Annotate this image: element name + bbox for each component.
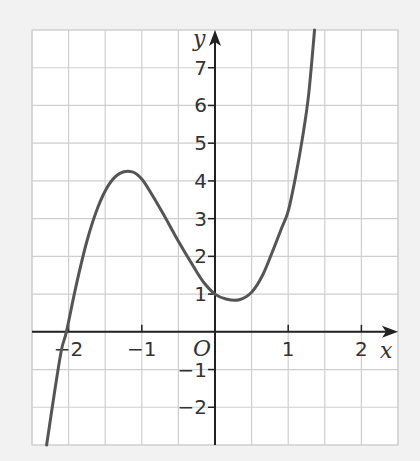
function-graph: −2−112−2−11234567 x y O: [0, 0, 420, 461]
origin-label: O: [193, 336, 211, 361]
y-axis-label: y: [192, 26, 206, 51]
x-tick-label: −1: [127, 337, 156, 361]
y-tick-label: 4: [194, 169, 207, 193]
y-tick-label: 6: [194, 93, 207, 117]
y-tick-label: −2: [178, 395, 207, 419]
y-tick-label: 2: [194, 244, 207, 268]
y-tick-label: 3: [194, 207, 207, 231]
x-axis-label: x: [380, 338, 393, 363]
x-tick-label: 2: [355, 337, 368, 361]
x-tick-label: −2: [54, 337, 83, 361]
y-tick-label: −1: [178, 358, 207, 382]
y-tick-label: 7: [194, 56, 207, 80]
y-tick-label: 5: [194, 131, 207, 155]
x-tick-label: 1: [282, 337, 295, 361]
